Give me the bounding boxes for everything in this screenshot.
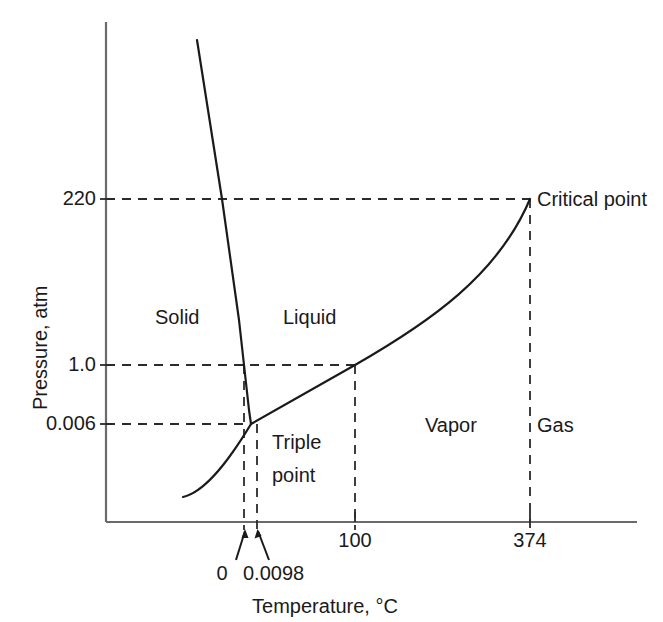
region-label-vapor: Vapor	[425, 415, 477, 435]
region-label-liquid: Liquid	[283, 307, 336, 327]
phase-diagram-figure: Pressure, atm 220 1.0 0.006 0 0.0098 100…	[0, 0, 663, 622]
annotation-triple-point-line1: Triple	[272, 432, 321, 452]
annotation-triple-point-line2: point	[272, 465, 315, 485]
x-tick-label-00098: 0.0098	[243, 563, 304, 583]
x-tick-label-100: 100	[325, 530, 385, 550]
y-axis-title: Pressure, atm	[30, 286, 50, 410]
sublimation-curve	[183, 424, 251, 497]
y-tick-label-1-0: 1.0	[8, 354, 96, 374]
region-label-solid: Solid	[155, 307, 199, 327]
region-label-gas: Gas	[537, 415, 574, 435]
x-axis-title: Temperature, °C	[205, 596, 445, 616]
x-tick-label-374: 374	[500, 530, 560, 550]
x-tick-label-0: 0	[207, 563, 237, 583]
tick-arrow-0-celsius	[236, 529, 249, 560]
y-tick-label-0006: 0.006	[8, 413, 96, 433]
tick-arrow-00098-celsius	[255, 529, 270, 560]
annotation-critical-point: Critical point	[537, 189, 647, 209]
y-tick-label-220: 220	[8, 188, 96, 208]
fusion-curve	[197, 40, 251, 424]
